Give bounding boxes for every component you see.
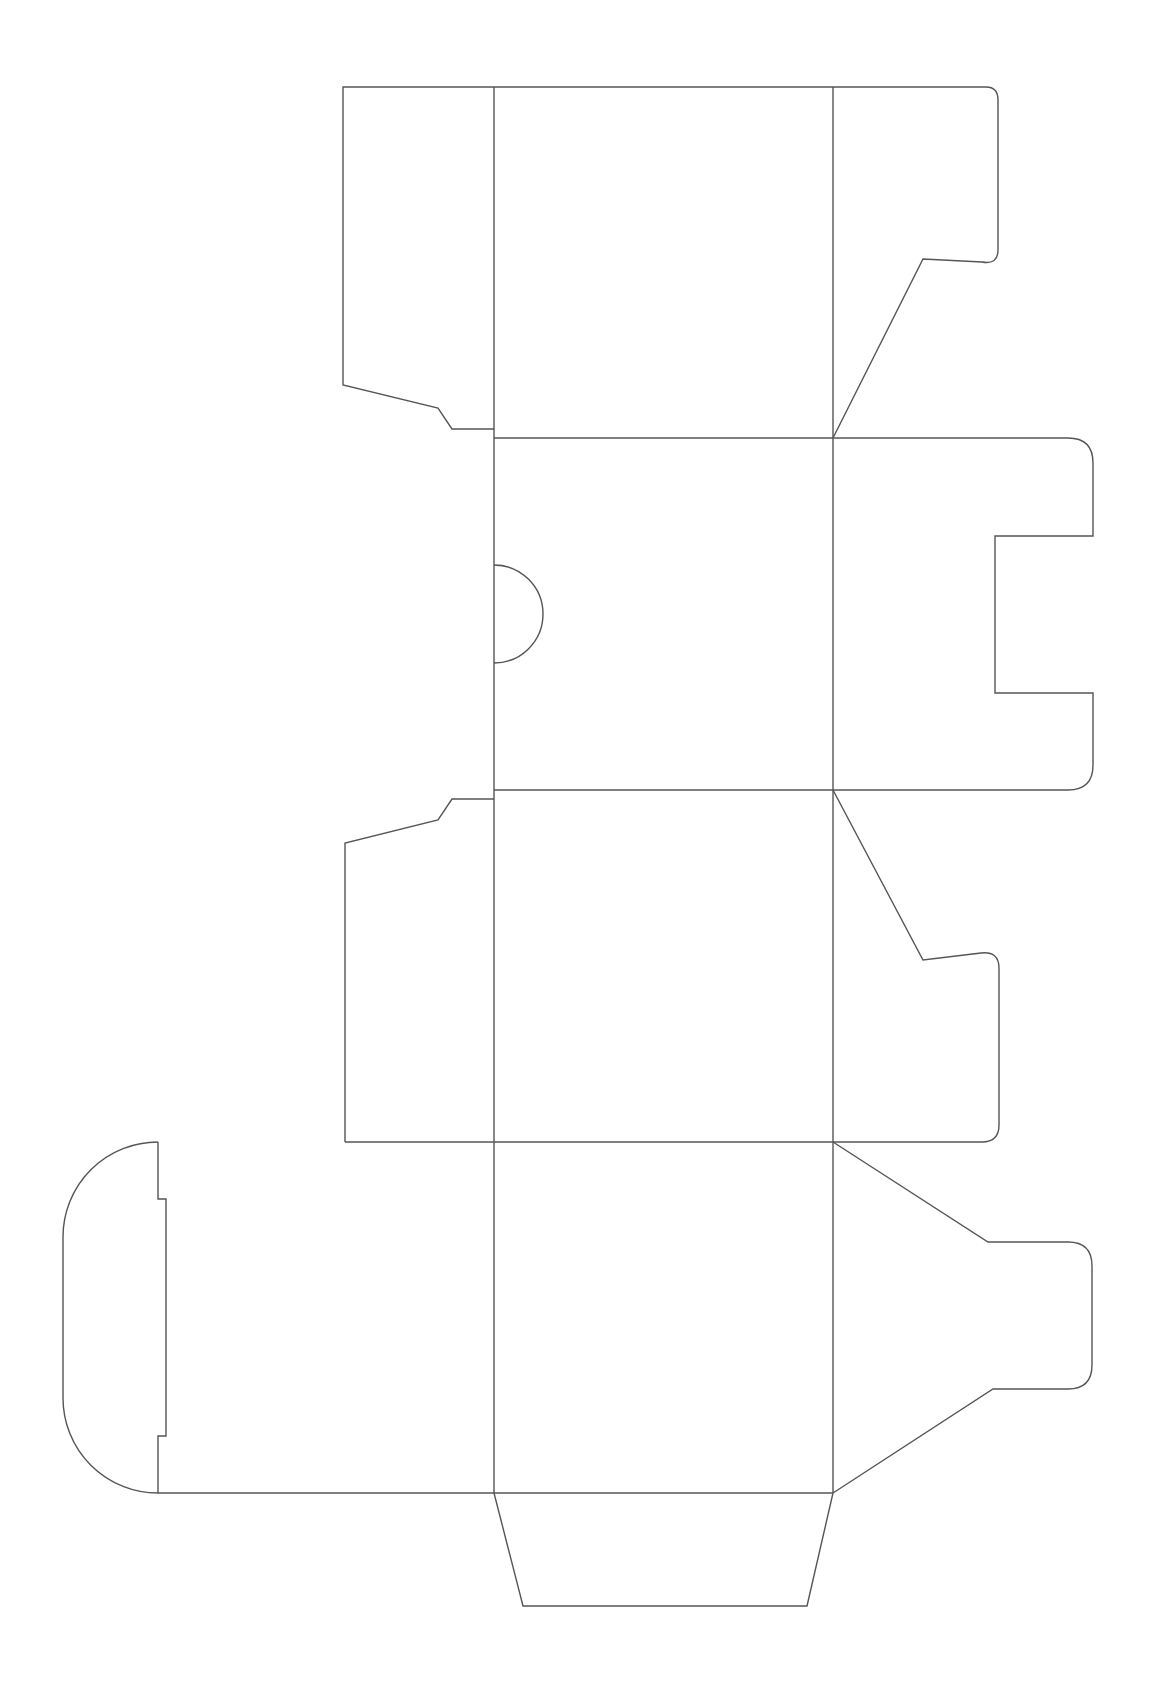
bottom-right-tab [833, 1142, 1092, 1493]
lid-inner-fold [158, 1142, 166, 1493]
main-panels [158, 87, 833, 1493]
thumb-notch [494, 565, 543, 663]
right-slotted-flap [833, 438, 1093, 790]
box-dieline [0, 0, 1164, 1701]
top-right-tuck-flap [494, 87, 998, 438]
bottom-left-rounded-lid [63, 1142, 158, 1493]
lower-right-tuck-flap [833, 790, 999, 1142]
lower-left-side-flap [345, 799, 494, 1142]
top-left-side-flap [343, 87, 494, 429]
bottom-trapezoid-flap [494, 1493, 833, 1606]
